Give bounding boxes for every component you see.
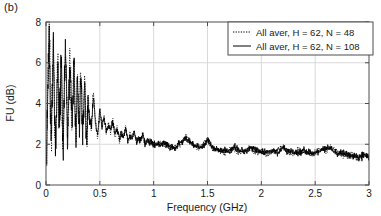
chart-legend: All aver, H = 62, N = 48All aver, H = 62… xyxy=(228,22,373,55)
spectrum-chart: 00.511.522.53 02468 Frequency (GHz) FU (… xyxy=(0,0,381,216)
y-tick-label: 2 xyxy=(35,139,41,150)
y-axis-label: FU (dB) xyxy=(4,85,16,122)
legend-label-1: All aver, H = 62, N = 48 xyxy=(256,27,354,38)
x-tick-label: 0.5 xyxy=(93,188,107,199)
y-tick-label: 0 xyxy=(35,180,41,191)
x-tick-label: 1 xyxy=(151,188,157,199)
x-tick-label: 2.5 xyxy=(308,188,322,199)
y-tick-label: 4 xyxy=(35,98,41,109)
x-tick-label: 1.5 xyxy=(201,188,215,199)
y-tick-label: 8 xyxy=(35,17,41,28)
legend-label-2: All aver, H = 62, N = 108 xyxy=(256,41,360,52)
x-tick-label: 0 xyxy=(43,188,49,199)
y-tick-label: 6 xyxy=(35,57,41,68)
x-axis-label: Frequency (GHz) xyxy=(167,201,248,213)
figure-panel-b: (b) 00.511.522.53 02468 Frequency (GHz) … xyxy=(0,0,381,216)
x-tick-label: 3 xyxy=(366,188,372,199)
x-tick-label: 2 xyxy=(259,188,265,199)
